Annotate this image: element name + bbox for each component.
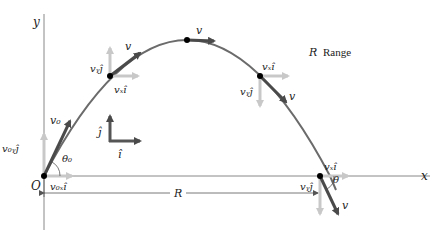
x-axis-label: x [421, 169, 428, 183]
v0-label: v₀ [50, 114, 61, 127]
trajectory-curve [44, 40, 336, 190]
falling-point [257, 73, 288, 106]
range-label: R [173, 187, 182, 200]
legend-text: Range [323, 46, 351, 58]
theta-label: θ [333, 174, 339, 185]
i-hat-label: î [118, 148, 123, 161]
launch-dot [41, 173, 47, 179]
j-hat-label: ĵ [96, 126, 102, 139]
legend-symbol: R [308, 46, 317, 59]
launch-point [41, 121, 72, 179]
rising-point [107, 48, 140, 79]
theta0-arc [52, 162, 60, 176]
falling-v-label: v [289, 90, 296, 103]
v0x-label: v₀ₓî [50, 181, 67, 192]
apex-v-label: v [196, 24, 203, 37]
theta0-label: θ₀ [62, 153, 72, 164]
landing-v-label: v [342, 199, 349, 212]
rising-vx-label: vₓî [114, 84, 127, 95]
landing-vy-label: vᵧĵ [300, 181, 313, 192]
falling-vy-label: vᵧĵ [240, 86, 253, 97]
rising-v-label: v [125, 40, 132, 53]
axes [44, 14, 430, 230]
projectile-diagram: y x O R R Range ĵ î v₀ v₀ᵧĵ v₀ₓî θ₀ v vᵧ… [0, 0, 447, 232]
unit-vectors [109, 116, 140, 142]
falling-vx-label: vₓî [262, 61, 275, 72]
landing-vx-label: vₓî [324, 161, 337, 172]
v0-velocity-arrow [44, 121, 70, 176]
rising-vy-label: vᵧĵ [90, 63, 103, 74]
apex-point [184, 37, 214, 43]
v0y-label: v₀ᵧĵ [2, 143, 19, 154]
origin-label: O [31, 179, 41, 193]
y-axis-label: y [32, 15, 40, 29]
